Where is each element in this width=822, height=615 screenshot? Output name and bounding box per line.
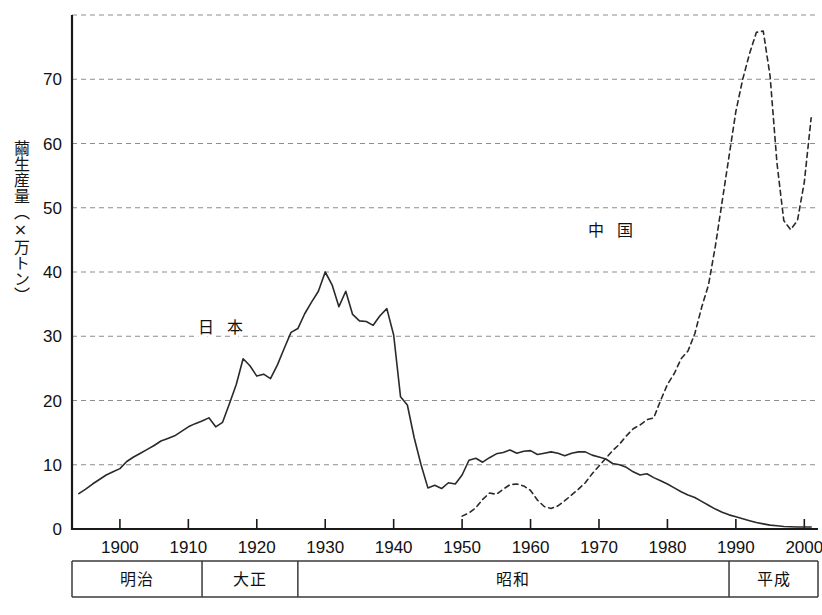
x-tick-label: 1940 <box>375 538 413 557</box>
era-label: 大正 <box>233 570 267 589</box>
y-tick-label: 20 <box>43 392 62 411</box>
series-label: 日 本 <box>198 318 247 337</box>
x-tick-label: 1960 <box>512 538 550 557</box>
series-line-china <box>462 31 811 516</box>
plot-area: 010203040506070 190019101920193019401950… <box>0 0 822 615</box>
x-tick-label: 1900 <box>101 538 139 557</box>
x-tick-marks <box>120 519 804 529</box>
chart-root: 繭生産量（×万トン） 010203040506070 1900191019201… <box>0 0 822 615</box>
x-tick-label: 1980 <box>649 538 687 557</box>
y-tick-label: 40 <box>43 263 62 282</box>
series-label: 中 国 <box>588 221 637 240</box>
era-label: 明治 <box>120 570 154 589</box>
y-tick-labels: 010203040506070 <box>43 70 62 539</box>
era-label: 平成 <box>757 570 791 589</box>
x-tick-label: 1920 <box>238 538 276 557</box>
x-tick-label: 2000 <box>785 538 822 557</box>
y-tick-label: 60 <box>43 135 62 154</box>
y-tick-label: 30 <box>43 327 62 346</box>
x-tick-labels: 1900191019201930194019501960197019801990… <box>101 538 822 557</box>
y-tick-label: 0 <box>53 520 62 539</box>
y-tick-label: 10 <box>43 456 62 475</box>
x-tick-label: 1950 <box>443 538 481 557</box>
era-label: 昭和 <box>496 570 530 589</box>
series-annotations: 日 本中 国 <box>198 221 637 336</box>
data-series-layer <box>79 31 811 527</box>
x-tick-label: 1970 <box>580 538 618 557</box>
x-tick-label: 1910 <box>169 538 207 557</box>
y-tick-label: 50 <box>43 199 62 218</box>
series-line-japan <box>79 272 811 527</box>
y-tick-label: 70 <box>43 70 62 89</box>
x-tick-label: 1930 <box>306 538 344 557</box>
x-tick-label: 1990 <box>717 538 755 557</box>
era-bar: 明治大正昭和平成 <box>72 561 818 597</box>
gridlines <box>72 15 818 465</box>
cocoon-production-line-chart: 010203040506070 190019101920193019401950… <box>0 0 822 615</box>
